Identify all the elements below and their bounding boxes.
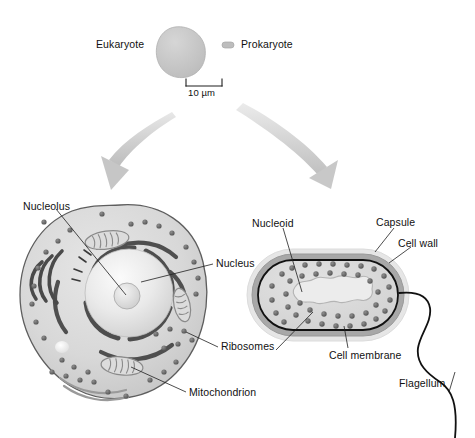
top-eukaryote-shape	[156, 27, 205, 78]
arrow-to-eukaryote	[109, 112, 176, 167]
label-mitochondrion: Mitochondrion	[189, 387, 256, 398]
leader-flagellum	[449, 372, 455, 392]
label-scale-bar: 10 µm	[188, 88, 215, 98]
label-flagellum: Flagellum	[399, 378, 445, 389]
label-nucleus: Nucleus	[216, 258, 255, 269]
arrow-to-prokaryote	[236, 103, 327, 175]
leader-cell-wall	[389, 247, 411, 263]
label-capsule: Capsule	[376, 217, 415, 228]
label-cell-membrane: Cell membrane	[329, 350, 402, 361]
prokaryotic-cell	[247, 228, 456, 438]
top-scale-comparison	[156, 27, 234, 86]
label-nucleoid: Nucleoid	[252, 218, 294, 229]
top-prokaryote-shape	[222, 42, 234, 48]
leader-capsule	[375, 228, 394, 252]
vesicle	[55, 341, 69, 353]
cell-comparison-figure: Eukaryote Prokaryote 10 µm Nucleolus Nuc…	[0, 0, 475, 438]
nucleolus	[114, 283, 140, 309]
eukaryotic-cell	[20, 205, 218, 400]
scale-bar	[186, 79, 222, 86]
label-prokaryote-top: Prokaryote	[241, 39, 293, 50]
label-nucleolus: Nucleolus	[23, 201, 70, 212]
label-cell-wall: Cell wall	[398, 238, 438, 249]
label-ribosomes: Ribosomes	[221, 341, 274, 352]
label-eukaryote-top: Eukaryote	[96, 39, 144, 50]
flagellum	[399, 293, 456, 438]
